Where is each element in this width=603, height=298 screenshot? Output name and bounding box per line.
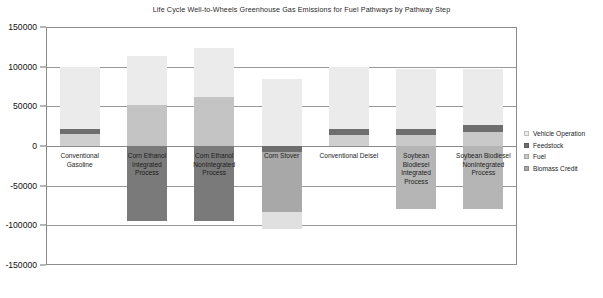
legend-item[interactable]: Feedstock: [524, 140, 603, 152]
x-axis-label-line: Process: [382, 178, 449, 187]
x-axis-category-label: Soybean BiodieselNonIntegratedProcess: [450, 152, 517, 178]
x-axis-label-line: Integrated: [382, 169, 449, 178]
x-axis-labels: ConventionalGasolineCorn EthanolIntegrat…: [46, 152, 517, 200]
bar-segment[interactable]: [396, 69, 436, 129]
bar-group[interactable]: [262, 27, 302, 265]
bar-segment[interactable]: [262, 212, 302, 229]
x-axis-label-line: Process: [113, 169, 180, 178]
x-axis-category-label: ConventionalGasoline: [46, 152, 113, 169]
x-axis-label-line: Corn Stover: [248, 152, 315, 161]
y-axis-tick-label: -100000: [5, 220, 37, 230]
y-axis-tick-label: -150000: [5, 260, 37, 270]
bar-segment[interactable]: [194, 97, 234, 146]
bar-segment[interactable]: [262, 79, 302, 128]
bar-segment[interactable]: [463, 132, 503, 146]
x-axis-label-line: Biodiesel: [382, 161, 449, 170]
bar-segment[interactable]: [262, 128, 302, 146]
legend-item[interactable]: Fuel: [524, 151, 603, 163]
bar-segment[interactable]: [60, 67, 100, 129]
chart-legend: Vehicle OperationFeedstockFuelBiomass Cr…: [524, 128, 603, 174]
y-axis-tick-label: -50000: [10, 181, 37, 191]
chart-root: Life Cycle Well-to-Wheels Greenhouse Gas…: [0, 0, 603, 298]
x-axis-label-line: Process: [450, 169, 517, 178]
x-axis-label-line: Corn Ethanol: [113, 152, 180, 161]
bars-layer: [46, 27, 517, 265]
bar-segment[interactable]: [194, 48, 234, 97]
legend-swatch-icon: [524, 154, 529, 159]
bar-group[interactable]: [60, 27, 100, 265]
bar-segment[interactable]: [329, 129, 369, 135]
legend-swatch-icon: [524, 166, 529, 171]
bar-segment[interactable]: [60, 134, 100, 146]
x-axis-category-label: Corn EthanolNonIntegratedProcess: [181, 152, 248, 178]
x-axis-label-line: Soybean Biodiesel: [450, 152, 517, 161]
x-axis-label-line: NonIntegrated: [450, 161, 517, 170]
bar-group[interactable]: [329, 27, 369, 265]
bar-segment[interactable]: [127, 105, 167, 146]
bar-segment[interactable]: [329, 67, 369, 129]
x-axis-label-line: Process: [181, 169, 248, 178]
y-axis-tick-label: 50000: [13, 101, 37, 111]
bar-segment[interactable]: [396, 135, 436, 146]
x-axis-category-label: Corn Stover: [248, 152, 315, 161]
bar-segment[interactable]: [463, 69, 503, 125]
y-axis-tick-label: 0: [32, 141, 37, 151]
x-axis-label-line: Conventional: [46, 152, 113, 161]
x-axis-label-line: Soybean: [382, 152, 449, 161]
x-axis-label-line: Gasoline: [46, 161, 113, 170]
x-axis-label-line: Conventional Deisel: [315, 152, 382, 161]
legend-item[interactable]: Vehicle Operation: [524, 128, 603, 140]
legend-swatch-icon: [524, 143, 529, 148]
chart-title: Life Cycle Well-to-Wheels Greenhouse Gas…: [0, 5, 603, 14]
bar-segment[interactable]: [329, 135, 369, 146]
legend-label: Fuel: [533, 153, 546, 160]
bar-group[interactable]: [194, 27, 234, 265]
legend-label: Vehicle Operation: [533, 130, 585, 137]
bar-segment[interactable]: [463, 125, 503, 131]
bar-group[interactable]: [127, 27, 167, 265]
y-axis-tick-label: 150000: [8, 22, 37, 32]
bar-segment[interactable]: [127, 56, 167, 105]
bar-group[interactable]: [396, 27, 436, 265]
legend-label: Biomass Credit: [533, 165, 578, 172]
bar-segment[interactable]: [60, 129, 100, 135]
legend-swatch-icon: [524, 131, 529, 136]
x-axis-label-line: Corn Ethanol: [181, 152, 248, 161]
x-axis-label-line: NonIntegrated: [181, 161, 248, 170]
x-axis-category-label: SoybeanBiodieselIntegratedProcess: [382, 152, 449, 186]
x-axis-label-line: Integrated: [113, 161, 180, 170]
legend-item[interactable]: Biomass Credit: [524, 163, 603, 175]
legend-label: Feedstock: [533, 142, 563, 149]
x-axis-category-label: Conventional Deisel: [315, 152, 382, 161]
y-axis: 150000100000500000-50000-100000-150000: [0, 27, 46, 265]
x-axis-category-label: Corn EthanolIntegratedProcess: [113, 152, 180, 178]
y-axis-tick-label: 100000: [8, 62, 37, 72]
bar-segment[interactable]: [396, 129, 436, 135]
bar-group[interactable]: [463, 27, 503, 265]
